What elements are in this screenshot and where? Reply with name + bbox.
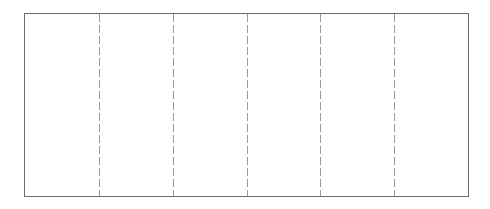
vertical-gridline	[320, 14, 321, 196]
vertical-gridline	[99, 14, 100, 196]
chart-canvas	[0, 0, 490, 209]
vertical-gridline	[394, 14, 395, 196]
plot-area	[24, 13, 469, 197]
vertical-gridline	[247, 14, 248, 196]
vertical-gridline	[173, 14, 174, 196]
